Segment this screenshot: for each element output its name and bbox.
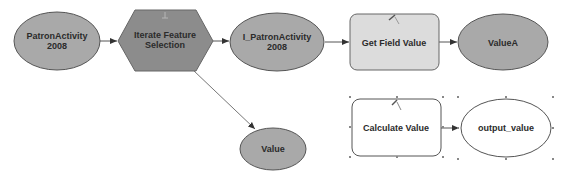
data-node-value-a[interactable]: ValueA — [458, 14, 548, 70]
node-label: I_PatronActivity — [243, 32, 312, 42]
data-node-value[interactable]: Value — [240, 128, 306, 170]
model-canvas[interactable]: PatronActivity 2008 Iterate Feature Sele… — [0, 0, 568, 177]
data-node-i-patron-activity-2008[interactable]: I_PatronActivity 2008 — [230, 13, 324, 71]
node-label: Get Field Value — [362, 38, 427, 48]
node-label: Calculate Value — [363, 123, 429, 133]
connector-iterate-to-value[interactable] — [193, 70, 255, 129]
data-node-output-value[interactable]: output_value — [457, 96, 554, 160]
node-label: 2008 — [47, 41, 67, 51]
node-label: output_value — [478, 123, 534, 133]
data-node-patron-activity-2008[interactable]: PatronActivity 2008 — [14, 12, 100, 70]
node-label: 2008 — [267, 42, 287, 52]
node-label: Value — [261, 144, 285, 154]
node-label: ValueA — [488, 38, 519, 48]
node-label: Iterate Feature — [134, 30, 196, 40]
node-label: Selection — [145, 40, 185, 50]
node-label: PatronActivity — [26, 31, 87, 41]
tool-node-get-field-value[interactable]: Get Field Value — [350, 14, 439, 70]
tool-node-calculate-value[interactable]: Calculate Value — [349, 96, 444, 158]
tool-node-iterate-feature-selection[interactable]: Iterate Feature Selection — [118, 10, 213, 71]
